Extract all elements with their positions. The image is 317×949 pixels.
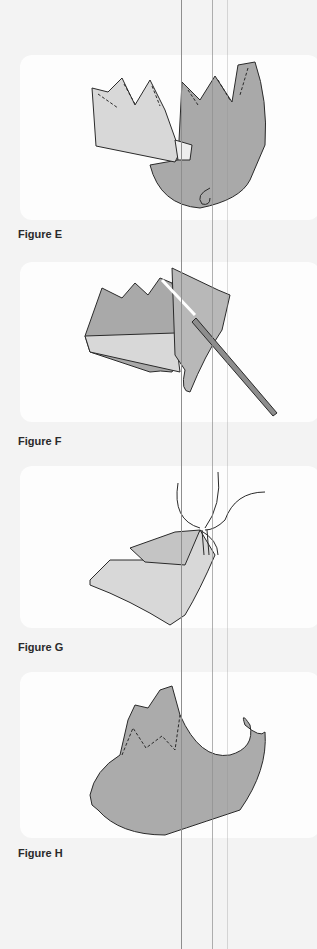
illustrations	[0, 0, 317, 949]
vertical-guide-line	[227, 0, 228, 949]
figure-h-illustration	[90, 686, 265, 835]
vertical-guide-line	[181, 0, 182, 949]
figure-g-illustration	[90, 472, 265, 625]
figure-e-illustration	[92, 62, 266, 208]
vertical-guide-line	[212, 0, 213, 949]
